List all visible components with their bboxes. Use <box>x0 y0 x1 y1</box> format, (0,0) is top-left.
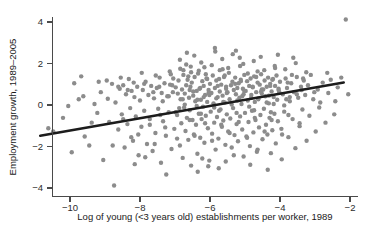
scatter-point <box>283 67 287 71</box>
scatter-point <box>101 158 105 162</box>
scatter-point <box>145 142 149 146</box>
y-tick-label: 0 <box>38 99 43 110</box>
scatter-point <box>247 104 251 108</box>
scatter-point <box>219 123 223 127</box>
scatter-point <box>254 75 258 79</box>
scatter-point <box>304 70 308 74</box>
plot-canvas: −4−2024 −10−8−6−4−2 Employment growth, 1… <box>0 0 370 238</box>
scatter-point <box>278 80 282 84</box>
plot-background <box>0 0 370 238</box>
scatter-point <box>135 85 139 89</box>
scatter-point <box>202 65 206 69</box>
scatter-point <box>196 170 200 174</box>
scatter-point <box>142 109 146 113</box>
scatter-point <box>183 91 187 95</box>
scatter-point <box>282 103 286 107</box>
scatter-point <box>239 102 243 106</box>
scatter-point <box>97 80 101 84</box>
scatter-point <box>270 128 274 132</box>
scatter-point <box>204 72 208 76</box>
scatter-point <box>238 64 242 68</box>
scatter-point <box>216 136 220 140</box>
scatter-point <box>152 96 156 100</box>
scatter-point <box>279 127 283 131</box>
scatter-plot-figure: −4−2024 −10−8−6−4−2 Employment growth, 1… <box>0 0 370 238</box>
scatter-point <box>227 97 231 101</box>
scatter-point <box>234 48 238 52</box>
scatter-point <box>198 86 202 90</box>
scatter-point <box>46 126 50 130</box>
scatter-point <box>120 112 124 116</box>
scatter-point <box>149 84 153 88</box>
scatter-point <box>232 153 236 157</box>
x-axis-title: Log of young (<3 years old) establishmen… <box>77 211 332 222</box>
scatter-point <box>181 73 185 77</box>
scatter-point <box>264 123 268 127</box>
scatter-point <box>269 89 273 93</box>
scatter-point <box>333 99 337 103</box>
scatter-point <box>344 17 348 21</box>
scatter-point <box>129 89 133 93</box>
scatter-point <box>179 121 183 125</box>
scatter-point <box>235 86 239 90</box>
scatter-point <box>171 76 175 80</box>
scatter-point <box>156 107 160 111</box>
scatter-point <box>329 77 333 81</box>
scatter-point <box>127 77 131 81</box>
scatter-point <box>269 110 273 114</box>
scatter-point <box>200 156 204 160</box>
scatter-point <box>259 72 263 76</box>
scatter-point <box>297 121 301 125</box>
scatter-point <box>163 125 167 129</box>
scatter-point <box>301 76 305 80</box>
scatter-point <box>213 147 217 151</box>
scatter-point <box>128 106 132 110</box>
scatter-point <box>77 97 81 101</box>
scatter-point <box>81 94 85 98</box>
scatter-point <box>210 131 214 135</box>
scatter-point <box>106 97 110 101</box>
scatter-point <box>218 89 222 93</box>
scatter-point <box>83 134 87 138</box>
scatter-point <box>238 55 242 59</box>
scatter-point <box>124 92 128 96</box>
scatter-point <box>268 84 272 88</box>
scatter-point <box>164 172 168 176</box>
scatter-point <box>284 97 288 101</box>
scatter-point <box>178 58 182 62</box>
scatter-point <box>332 112 336 116</box>
scatter-point <box>150 149 154 153</box>
scatter-point <box>167 94 171 98</box>
scatter-point <box>178 143 182 147</box>
scatter-point <box>105 78 109 82</box>
scatter-point <box>269 118 273 122</box>
scatter-point <box>79 74 83 78</box>
scatter-point <box>265 100 269 104</box>
scatter-point <box>318 100 322 104</box>
scatter-point <box>181 68 185 72</box>
scatter-point <box>143 155 147 159</box>
scatter-point <box>246 120 250 124</box>
scatter-point <box>317 105 321 109</box>
scatter-point <box>139 125 143 129</box>
scatter-point <box>170 83 174 87</box>
scatter-point <box>269 151 273 155</box>
scatter-point <box>255 69 259 73</box>
scatter-point <box>141 88 145 92</box>
scatter-point <box>248 163 252 167</box>
scatter-point <box>129 135 133 139</box>
scatter-point <box>110 82 114 86</box>
scatter-point <box>99 90 103 94</box>
scatter-point <box>251 85 255 89</box>
scatter-point <box>172 127 176 131</box>
scatter-point <box>326 91 330 95</box>
scatter-point <box>153 131 157 135</box>
scatter-point <box>209 109 213 113</box>
scatter-point <box>190 80 194 84</box>
scatter-point <box>185 51 189 55</box>
scatter-point <box>226 66 230 70</box>
scatter-point <box>336 85 340 89</box>
scatter-point <box>309 73 313 77</box>
scatter-point <box>243 111 247 115</box>
x-tick-label: −10 <box>62 202 78 213</box>
